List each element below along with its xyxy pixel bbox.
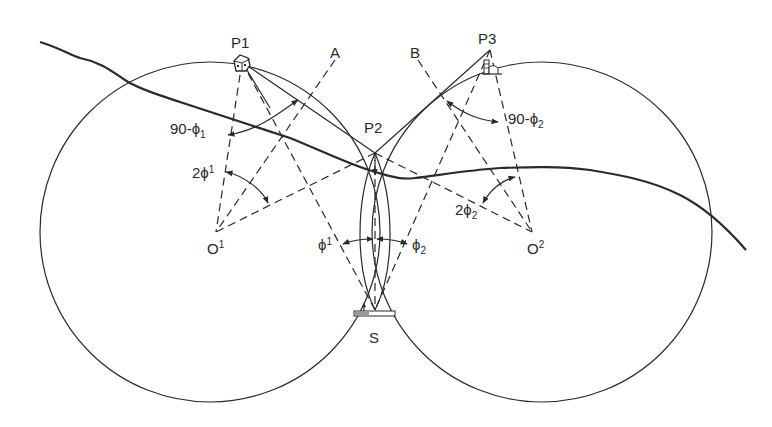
label-b: B [410, 44, 420, 61]
shoreline [40, 42, 746, 250]
arc-2phi2 [483, 177, 515, 203]
house-icon [234, 55, 250, 71]
label-90-phi1: 90-ϕ1 [170, 120, 206, 140]
label-2phi2: 2ϕ2 [455, 201, 478, 221]
label-s: S [369, 329, 379, 346]
resection-diagram: P1 A B P3 P2 S 90-ϕ1 90-ϕ2 2ϕ1 2ϕ2 ϕ1 ϕ2… [0, 0, 772, 427]
label-p3: P3 [478, 30, 496, 47]
arc-phi2 [377, 239, 407, 244]
arc-90-phi2 [447, 101, 498, 122]
dash-p2-o2 [375, 153, 532, 232]
dash-b-o2 [418, 60, 532, 232]
label-2phi1: 2ϕ1 [192, 164, 215, 181]
label-o2: O2 [527, 239, 545, 257]
circle-left [40, 62, 380, 402]
label-90-phi2: 90-ϕ2 [508, 110, 544, 130]
arc-phi1 [343, 239, 373, 244]
line-p1-p2 [242, 62, 375, 153]
label-phi1: ϕ1 [318, 236, 332, 253]
dash-p3-o2 [490, 50, 532, 232]
dash-p3-s [375, 50, 490, 310]
label-phi2: ϕ2 [412, 236, 426, 256]
arc-2phi1 [226, 172, 268, 203]
label-o1: O1 [207, 239, 225, 257]
dash-p2-o1 [216, 153, 375, 232]
label-p2: P2 [364, 119, 382, 136]
dash-p1-s [242, 62, 375, 310]
circle-right [372, 62, 712, 402]
label-p1: P1 [231, 34, 249, 51]
dash-p1-o1 [216, 62, 242, 232]
label-a: A [330, 44, 340, 61]
line-p3-p2 [375, 50, 490, 153]
dash-a-o1 [216, 60, 335, 232]
